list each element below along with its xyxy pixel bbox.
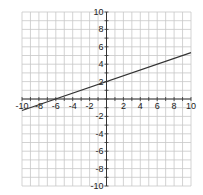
y-tick-label: -2	[95, 111, 103, 121]
x-tick-label: 2	[121, 101, 126, 111]
y-tick-label: 10	[93, 7, 103, 17]
y-tick-label: 2	[98, 77, 103, 87]
x-tick-label: 6	[155, 101, 160, 111]
x-tick-label: 10	[186, 101, 196, 111]
y-tick-label: -10	[90, 181, 103, 191]
x-tick-label: 4	[138, 101, 143, 111]
x-tick-label: 8	[172, 101, 177, 111]
y-tick-label: 4	[98, 59, 103, 69]
x-tick-label: -2	[86, 101, 94, 111]
coordinate-plane: -10-8-6-4-2246810108642-2-4-6-8-10	[0, 0, 203, 195]
y-tick-label: -6	[95, 146, 103, 156]
x-tick-label: -4	[69, 101, 77, 111]
y-tick-label: -4	[95, 129, 103, 139]
y-tick-label: 6	[98, 42, 103, 52]
x-tick-label: -6	[52, 101, 60, 111]
y-tick-label: -8	[95, 164, 103, 174]
y-tick-label: 8	[98, 24, 103, 34]
